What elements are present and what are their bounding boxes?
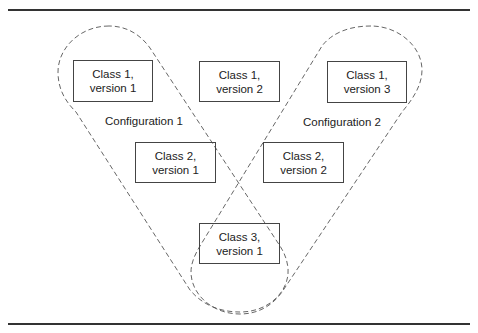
class-2-version-2-box: Class 2, version 2 (263, 142, 344, 183)
box-line-2: version 1 (152, 163, 199, 177)
class-1-version-3-box: Class 1, version 3 (327, 61, 407, 103)
box-line-2: version 1 (90, 81, 137, 95)
class-3-version-1-box: Class 3, version 1 (199, 223, 280, 264)
box-line-2: version 1 (216, 244, 263, 258)
box-line-2: version 3 (344, 82, 391, 96)
configuration-2-label: Configuration 2 (303, 116, 381, 128)
box-line-1: Class 2, (155, 149, 197, 163)
class-1-version-2-box: Class 1, version 2 (199, 61, 280, 102)
class-1-version-1-box: Class 1, version 1 (73, 60, 153, 102)
class-2-version-1-box: Class 2, version 1 (135, 142, 216, 183)
box-line-1: Class 1, (346, 68, 388, 82)
box-line-1: Class 1, (92, 67, 134, 81)
configuration-outlines (0, 0, 478, 333)
box-line-1: Class 3, (219, 230, 261, 244)
box-line-2: version 2 (280, 163, 327, 177)
box-line-1: Class 2, (283, 149, 325, 163)
box-line-2: version 2 (216, 82, 263, 96)
configuration-1-label: Configuration 1 (105, 115, 183, 127)
box-line-1: Class 1, (219, 68, 261, 82)
